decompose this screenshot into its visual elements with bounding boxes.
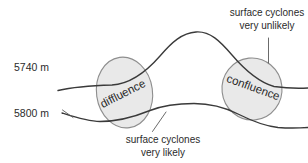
contour-label-5800: 5800 m	[14, 107, 49, 119]
annotation-upper-line1: surface cyclones	[230, 7, 304, 18]
contour-label-5740: 5740 m	[14, 61, 49, 73]
diffluence-confluence-diagram: 5740 m 5800 m diffluence confluence surf…	[0, 0, 308, 163]
annotation-upper-line2: very unlikely	[239, 20, 294, 31]
leader-line-lower-annotation	[153, 112, 167, 132]
annotation-lower-line2: very likely	[141, 147, 185, 158]
annotation-lower-line1: surface cyclones	[126, 134, 200, 145]
